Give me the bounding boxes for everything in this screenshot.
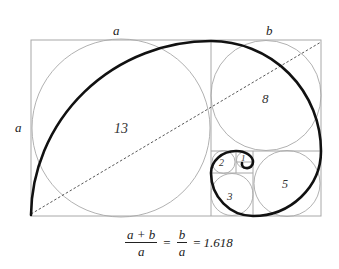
- denominator: a: [179, 243, 186, 258]
- golden-ratio-formula: a + b a = b a = 1.618: [122, 228, 233, 258]
- equals-sign: =: [193, 235, 200, 251]
- numerator: b: [177, 228, 188, 243]
- equals-sign: =: [163, 235, 170, 251]
- label-left-a: a: [15, 121, 22, 134]
- square-label-13: 13: [114, 122, 128, 136]
- label-top-b: b: [266, 24, 273, 37]
- fraction-a-plus-b-over-a: a + b a: [125, 228, 157, 258]
- diagonal-line: [31, 42, 321, 214]
- golden-ratio-value: 1.618: [203, 235, 232, 251]
- square-label-5: 5: [282, 178, 288, 190]
- inscribed-circles: [32, 39, 321, 217]
- square-label-1: 1: [241, 154, 246, 163]
- fraction-b-over-a: b a: [177, 228, 188, 258]
- denominator: a: [138, 243, 145, 258]
- numerator: a + b: [125, 228, 157, 243]
- square-label-8: 8: [262, 92, 269, 105]
- square-label-3: 3: [227, 191, 233, 202]
- square-label-2: 2: [219, 158, 224, 168]
- label-top-a: a: [113, 24, 120, 37]
